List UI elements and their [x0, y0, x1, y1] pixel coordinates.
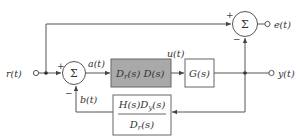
- block-feedback: H(s)Dy(s) Dr(s): [113, 95, 171, 135]
- output-terminal-e: [265, 21, 270, 26]
- plus-sign-right: +: [226, 10, 234, 20]
- svg-text:Σ: Σ: [241, 18, 249, 31]
- block-controller: Dr(s) D(s): [111, 59, 171, 87]
- output-terminal-y: [269, 70, 274, 75]
- signal-label-y: y(t): [277, 68, 295, 79]
- signal-label-r: r(t): [6, 68, 22, 79]
- block-plant: G(s): [185, 59, 214, 87]
- signal-label-b: b(t): [80, 94, 98, 105]
- input-terminal-r: [33, 70, 38, 75]
- signal-label-a: a(t): [88, 58, 105, 69]
- summer-left: Σ + −: [57, 61, 86, 98]
- summer-right: Σ + −: [226, 10, 258, 44]
- signal-label-u: u(t): [167, 48, 185, 59]
- plus-sign-left: +: [57, 61, 65, 71]
- block-diagram: r(t) Σ + − a(t) Dr(s) D(s) u(t) G(s) y(t…: [0, 0, 307, 139]
- svg-text:Σ: Σ: [70, 67, 78, 80]
- minus-sign-left: −: [65, 88, 73, 98]
- minus-sign-right: −: [233, 34, 241, 44]
- signal-label-e: e(t): [274, 19, 291, 30]
- svg-text:G(s): G(s): [189, 68, 210, 79]
